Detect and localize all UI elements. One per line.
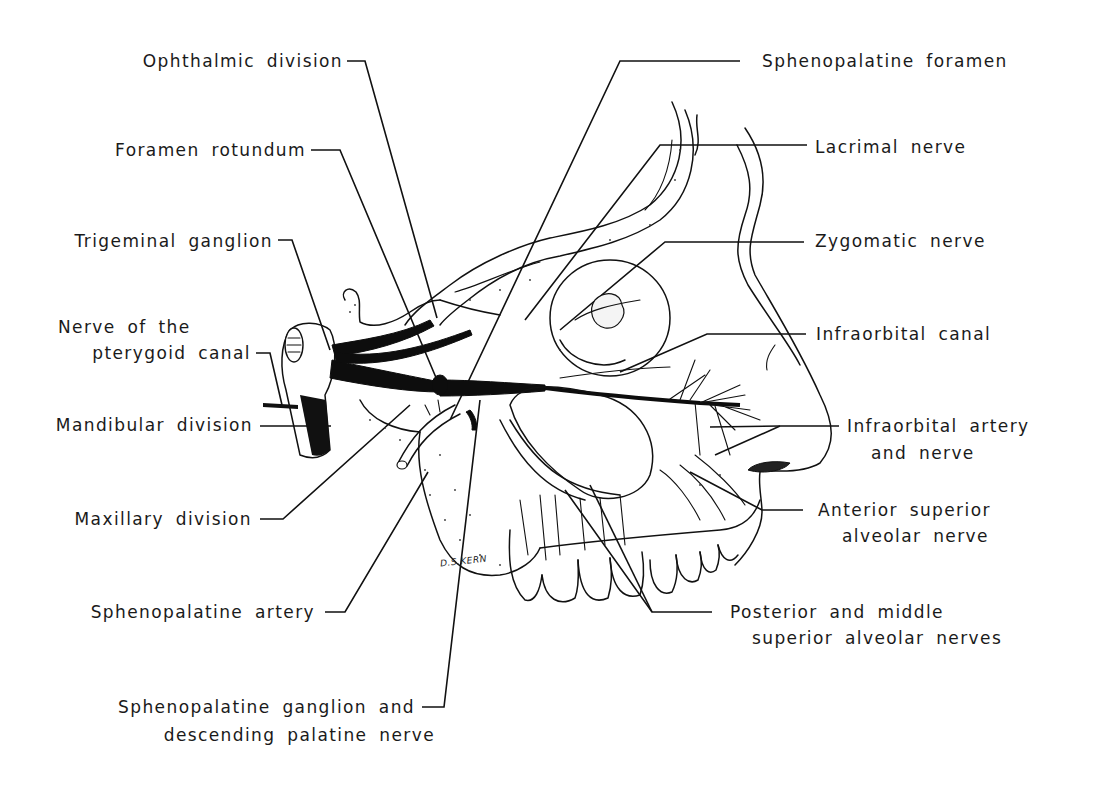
label-anterior-superior-alveolar-line1: Anterior superior (818, 497, 991, 523)
label-maxillary-division: Maxillary division (75, 506, 252, 532)
label-infraorbital-artery-line1: Infraorbital artery (847, 413, 1029, 439)
label-mandibular-division: Mandibular division (56, 412, 253, 438)
label-sphenopalatine-foramen: Sphenopalatine foramen (762, 48, 1008, 74)
label-zygomatic-nerve: Zygomatic nerve (815, 228, 986, 254)
label-posterior-middle-alveolar-line2: superior alveolar nerves (752, 625, 1002, 651)
sphenopalatine-artery-figure (397, 400, 477, 469)
trigeminal-ganglion-figure (263, 323, 335, 457)
label-ophthalmic-division: Ophthalmic division (143, 48, 343, 74)
orbit (550, 260, 670, 376)
label-sphenopalatine-ganglion-line2: descending palatine nerve (164, 722, 435, 748)
face-profile (695, 115, 831, 565)
nerve-trunks (330, 320, 760, 500)
label-posterior-middle-alveolar-line1: Posterior and middle (730, 599, 944, 625)
label-nerve-pterygoid-canal-line2: pterygoid canal (92, 340, 251, 366)
maxillary-sinus (510, 387, 653, 499)
label-sphenopalatine-artery: Sphenopalatine artery (91, 599, 315, 625)
label-sphenopalatine-ganglion-line1: Sphenopalatine ganglion and (118, 694, 415, 720)
label-anterior-superior-alveolar-line2: alveolar nerve (842, 523, 989, 549)
label-nerve-pterygoid-canal-line1: Nerve of the (58, 314, 191, 340)
label-foramen-rotundum: Foramen rotundum (115, 137, 306, 163)
orbital-floor (405, 102, 693, 325)
label-infraorbital-artery-line2: and nerve (871, 440, 975, 466)
label-infraorbital-canal: Infraorbital canal (816, 321, 991, 347)
anatomy-illustration (0, 0, 1103, 788)
label-lacrimal-nerve: Lacrimal nerve (815, 134, 966, 160)
teeth (509, 455, 760, 602)
label-trigeminal-ganglion: Trigeminal ganglion (75, 228, 273, 254)
